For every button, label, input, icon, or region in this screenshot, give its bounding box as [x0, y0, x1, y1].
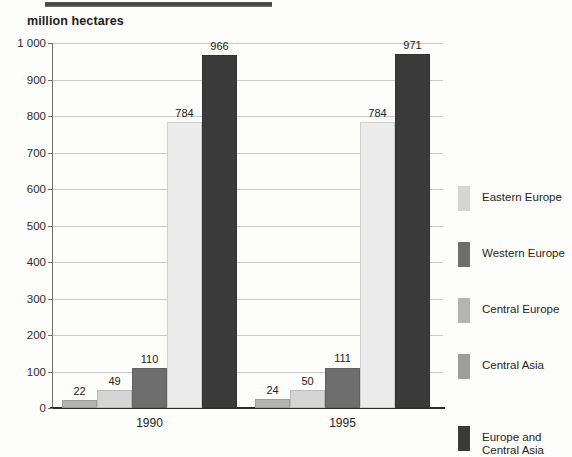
- y-axis-tick-label: 700: [27, 147, 46, 159]
- legend-swatch: [458, 242, 470, 267]
- y-axis-tick: [48, 153, 53, 154]
- bar-value-label: 784: [368, 107, 386, 119]
- x-axis-category-label: 1990: [136, 416, 163, 430]
- bar: [202, 55, 237, 408]
- y-axis-tick: [48, 226, 53, 227]
- chart-title: million hectares: [27, 14, 124, 28]
- bar-value-label: 49: [108, 375, 120, 387]
- y-axis-tick: [48, 262, 53, 263]
- gridline: [52, 80, 443, 81]
- legend-label: Central Europe: [482, 298, 559, 316]
- bar: [395, 54, 430, 408]
- legend-swatch: [458, 426, 470, 451]
- y-axis-labels: 1 0009008007006005004003002001000: [0, 43, 46, 408]
- y-axis-tick-label: 500: [27, 220, 46, 232]
- gridline: [52, 43, 443, 44]
- y-axis-tick-label: 100: [27, 366, 46, 378]
- bar: [97, 390, 132, 408]
- legend-label: Western Europe: [482, 242, 565, 260]
- legend-swatch: [458, 298, 470, 323]
- bar-value-label: 50: [301, 375, 313, 387]
- legend-label: Central Asia: [482, 354, 544, 372]
- legend-swatch: [458, 354, 470, 379]
- legend-item[interactable]: Eastern Europe: [458, 186, 562, 211]
- bar: [167, 122, 202, 408]
- bar-value-label: 110: [141, 353, 159, 365]
- bar-value-label: 22: [73, 385, 85, 397]
- y-axis-tick: [48, 372, 53, 373]
- y-axis-tick-label: 800: [27, 110, 46, 122]
- bar-value-label: 966: [210, 40, 228, 52]
- bar: [325, 368, 360, 409]
- y-axis-tick-label: 0: [40, 402, 46, 414]
- plot-area: 22491107849662450111784971: [52, 43, 443, 408]
- legend-label: Europe and Central Asia: [482, 426, 544, 457]
- y-axis-tick: [48, 116, 53, 117]
- y-axis-tick-label: 400: [27, 256, 46, 268]
- bar: [290, 390, 325, 408]
- legend-label: Eastern Europe: [482, 186, 562, 204]
- y-axis-tick-label: 200: [27, 329, 46, 341]
- y-axis-tick-label: 1 000: [17, 37, 46, 49]
- section-rule: [45, 2, 272, 7]
- y-axis-tick-label: 900: [27, 74, 46, 86]
- bar-value-label: 24: [266, 384, 278, 396]
- y-axis-tick-label: 300: [27, 293, 46, 305]
- bar: [360, 122, 395, 408]
- x-axis-category-label: 1995: [329, 416, 356, 430]
- legend-item[interactable]: Europe and Central Asia: [458, 426, 544, 457]
- y-axis-tick: [48, 408, 53, 409]
- legend-swatch: [458, 186, 470, 211]
- bar: [255, 399, 290, 408]
- bar: [62, 400, 97, 408]
- y-axis-tick: [48, 299, 53, 300]
- y-axis-tick: [48, 189, 53, 190]
- y-axis-tick: [48, 80, 53, 81]
- bar: [132, 368, 167, 408]
- bar-value-label: 784: [175, 107, 193, 119]
- y-axis-tick: [48, 43, 53, 44]
- legend-item[interactable]: Central Asia: [458, 354, 544, 379]
- bar-value-label: 971: [403, 39, 421, 51]
- y-axis-tick-label: 600: [27, 183, 46, 195]
- y-axis-tick: [48, 335, 53, 336]
- legend-item[interactable]: Central Europe: [458, 298, 559, 323]
- legend-item[interactable]: Western Europe: [458, 242, 565, 267]
- bar-value-label: 111: [334, 352, 351, 364]
